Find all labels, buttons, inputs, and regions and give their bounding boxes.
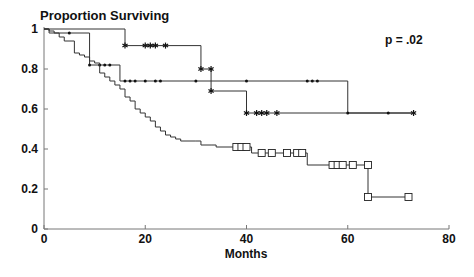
axes: 02040608000.20.40.60.81 [21,22,456,246]
dot-marker [103,64,106,67]
dot-marker [159,80,162,83]
y-tick-label: 0 [31,222,38,236]
y-tick-label: 1 [31,22,38,36]
square-marker [339,162,346,169]
dot-marker [311,80,314,83]
dot-marker [194,80,197,83]
square-marker [268,150,275,157]
y-tick-label: 0.6 [21,102,38,116]
square-marker [299,150,306,157]
plot-area: Proportion Surviving p = .02 Months 0204… [0,0,474,277]
x-tick-label: 0 [41,232,48,246]
dot-marker [154,80,157,83]
kaplan-meier-chart: Proportion Surviving p = .02 Months 0204… [0,0,474,277]
y-tick-label: 0.8 [21,62,38,76]
dot-marker [306,80,309,83]
square-marker [243,144,250,151]
y-tick-label: 0.2 [21,182,38,196]
x-axis-label: Months [225,247,268,261]
square-marker [258,150,265,157]
square-marker [365,162,372,169]
dot-marker [245,80,248,83]
square-marker [349,162,356,169]
dot-marker [387,112,390,115]
x-tick-label: 20 [139,232,153,246]
dot-marker [129,80,132,83]
dot-marker [316,80,319,83]
dot-marker [124,80,127,83]
dot-marker [144,80,147,83]
series-group [44,29,416,201]
x-tick-label: 40 [240,232,254,246]
square-marker [365,194,372,201]
square-marker [405,194,412,201]
square-series [44,29,412,201]
y-tick-label: 0.4 [21,142,38,156]
x-tick-label: 80 [442,232,456,246]
dot-marker [108,64,111,67]
dot-marker [68,32,71,35]
p-value-annotation: p = .02 [385,33,423,47]
dot-marker [134,80,137,83]
dot-marker [346,112,349,115]
dot-marker [88,64,91,67]
square-marker [284,150,291,157]
chart-title: Proportion Surviving [40,8,169,23]
x-tick-label: 60 [341,232,355,246]
